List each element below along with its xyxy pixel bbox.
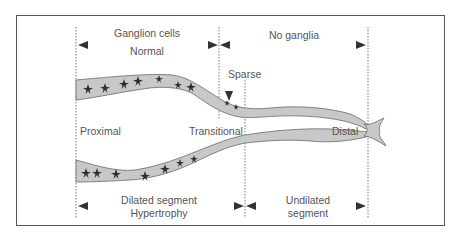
arrow-right-icon [356, 41, 366, 49]
arrow-right-icon [208, 41, 218, 49]
upper-bowel-wall [76, 74, 368, 129]
proximal-label: Proximal [80, 125, 121, 137]
arrow-left-icon [78, 41, 88, 49]
arrow-right-icon [234, 202, 244, 210]
arrow-left-icon [246, 202, 256, 210]
normal-label: Normal [130, 45, 164, 57]
transitional-label: Transitional [189, 125, 243, 137]
distal-label: Distal [332, 125, 358, 137]
ganglion-cells-label: Ganglion cells [114, 27, 180, 39]
no-ganglia-label: No ganglia [269, 29, 319, 41]
distal-end [364, 118, 386, 146]
arrow-right-icon [356, 202, 366, 210]
undilated-label: Undilated [286, 194, 330, 206]
arrow-left-icon [78, 202, 88, 210]
sparse-label: Sparse [228, 68, 261, 80]
hypertrophy-label: Hypertrophy [130, 207, 187, 219]
segment-label: segment [288, 207, 328, 219]
arrow-left-icon [220, 41, 230, 49]
bowel-diagram [0, 0, 461, 237]
sparse-marker-icon [225, 91, 233, 101]
dilated-segment-label: Dilated segment [121, 194, 197, 206]
